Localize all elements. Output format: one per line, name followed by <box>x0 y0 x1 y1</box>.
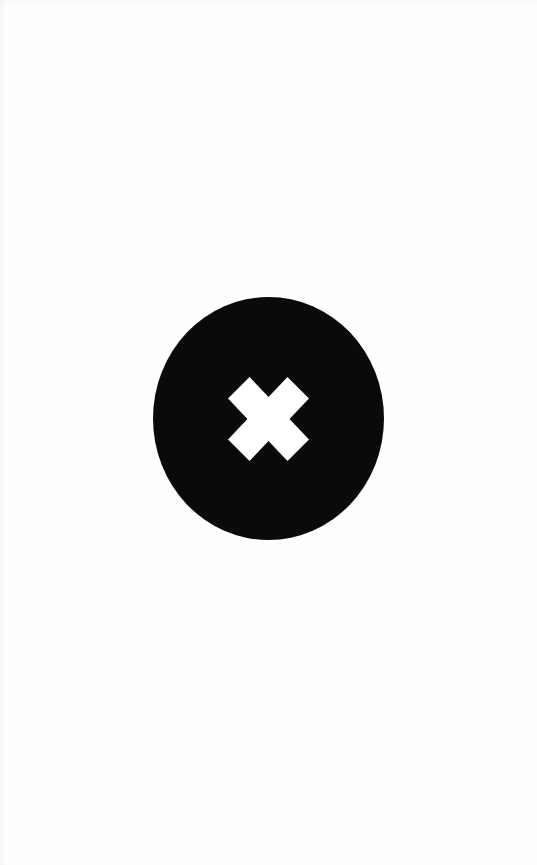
close-button[interactable] <box>153 297 384 540</box>
close-x-icon <box>228 377 309 461</box>
page-canvas <box>0 0 537 865</box>
